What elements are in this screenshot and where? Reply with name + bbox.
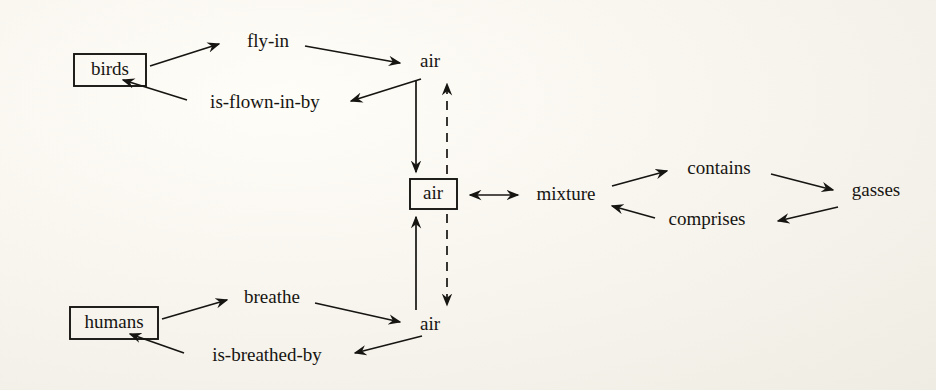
cluster-humans: humans breathe is-breathed-by air — [70, 286, 441, 365]
node-air-center[interactable]: air — [410, 179, 457, 209]
edge-mixture-to-contains — [612, 171, 667, 186]
relation-contains-label: contains — [687, 157, 750, 178]
node-mixture-label[interactable]: mixture — [536, 183, 595, 204]
edge-air-top-to-is-flown-in-by — [351, 79, 421, 101]
relation-fly-in-label: fly-in — [247, 30, 290, 51]
edge-is-breathed-by-to-humans — [130, 334, 184, 353]
relation-is-breathed-by-label: is-breathed-by — [212, 344, 322, 365]
links-air-top-to-center — [416, 81, 447, 174]
cluster-birds: birds fly-in is-flown-in-by air — [74, 30, 441, 112]
node-air-center-label: air — [423, 182, 444, 203]
node-birds[interactable]: birds — [74, 54, 146, 86]
semantic-network-diagram: birds fly-in is-flown-in-by air — [0, 0, 936, 390]
edge-humans-to-breathe — [162, 300, 227, 319]
cluster-mixture: air mixture contains comprises gasses — [410, 157, 900, 229]
edge-breathe-to-air-bottom — [315, 303, 400, 322]
node-humans[interactable]: humans — [70, 307, 158, 339]
edge-gasses-to-comprises — [778, 207, 838, 221]
node-air-bottom-label[interactable]: air — [420, 313, 441, 334]
diagram-canvas: birds fly-in is-flown-in-by air — [0, 0, 936, 390]
edge-contains-to-gasses — [771, 174, 833, 190]
relation-breathe-label: breathe — [244, 286, 300, 307]
edge-is-flown-in-by-to-birds — [123, 80, 187, 100]
node-humans-label: humans — [84, 311, 143, 332]
edge-birds-to-fly-in — [150, 44, 219, 66]
node-gasses-label[interactable]: gasses — [852, 179, 901, 200]
node-air-top-label[interactable]: air — [420, 50, 441, 71]
relation-comprises-label: comprises — [668, 208, 745, 229]
node-birds-label: birds — [91, 58, 129, 79]
edge-air-bottom-to-is-breathed-by — [355, 336, 422, 353]
edge-fly-in-to-air-top — [305, 46, 400, 63]
diagram-page: birds fly-in is-flown-in-by air — [0, 0, 936, 390]
links-air-center-to-bottom — [416, 214, 447, 310]
relation-is-flown-in-by-label: is-flown-in-by — [210, 91, 320, 112]
edge-comprises-to-mixture — [612, 206, 655, 218]
